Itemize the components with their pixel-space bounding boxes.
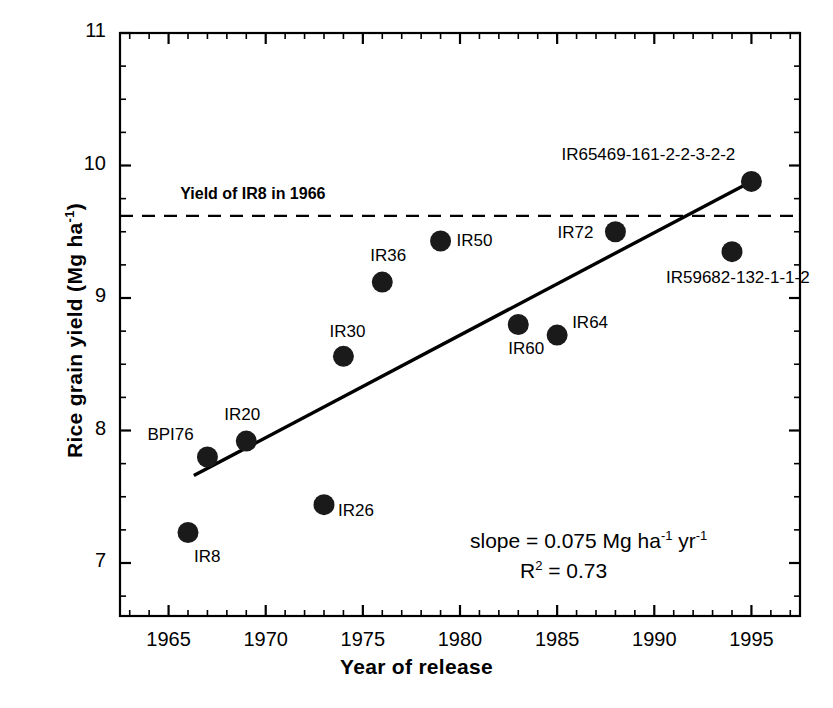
data-markers [178,171,762,543]
data-point-label: IR65469-161-2-2-3-2-2 [561,145,735,165]
data-point-marker [722,241,743,262]
data-point-marker [178,522,199,543]
slope-text: slope = 0.075 Mg ha [470,529,661,552]
data-point-label: IR64 [572,313,608,333]
data-point-label: IR26 [338,501,374,521]
reference-line-label: Yield of IR8 in 1966 [180,185,325,203]
data-point-marker [333,346,354,367]
y-axis-title-base: Rice grain yield (Mg ha [63,222,86,458]
data-point-marker [314,494,335,515]
x-tick-label: 1985 [512,628,602,651]
data-point-marker [197,447,218,468]
slope-mid-text: yr [672,529,695,552]
data-point-label: BPI76 [147,425,193,445]
plot-canvas [0,0,833,708]
y-axis-title-exponent: -1 [62,210,77,222]
x-tick-label: 1970 [221,628,311,651]
data-point-marker [741,171,762,192]
regression-line [194,181,752,475]
data-point-label: IR72 [557,223,593,243]
r-squared-value: = 0.73 [542,559,607,582]
x-tick-label: 1980 [415,628,505,651]
x-tick-label: 1965 [124,628,214,651]
x-axis-title: Year of release [0,655,833,679]
data-point-marker [372,272,393,293]
r-squared-annotation: R2 = 0.73 [520,558,607,583]
rice-yield-scatter-chart: 19651970197519801985199019957891011 IR8B… [0,0,833,708]
x-tick-label: 1975 [318,628,408,651]
slope-exponent-2: -1 [696,528,708,543]
y-tick-label: 11 [58,19,106,42]
data-point-label: IR50 [457,231,493,251]
data-point-label: IR30 [329,322,365,342]
slope-exponent-1: -1 [661,528,673,543]
data-point-marker [547,325,568,346]
y-axis-title: Rice grain yield (Mg ha-1) [62,71,87,591]
data-point-label: IR36 [370,246,406,266]
x-tick-label: 1995 [706,628,796,651]
data-point-label: IR20 [224,405,260,425]
y-axis-title-tail: ) [63,203,86,210]
x-tick-label: 1990 [609,628,699,651]
data-point-marker [236,431,257,452]
data-point-label: IR59682-132-1-1-2 [666,268,810,288]
data-point-marker [605,221,626,242]
data-point-marker [508,314,529,335]
data-point-label: IR8 [194,547,220,567]
data-point-marker [430,231,451,252]
slope-annotation: slope = 0.075 Mg ha-1 yr-1 [470,528,707,553]
r-squared-symbol: R [520,559,535,582]
data-point-label: IR60 [508,339,544,359]
